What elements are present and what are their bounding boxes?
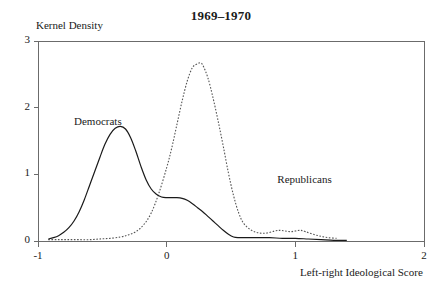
tick-marks	[34, 41, 424, 247]
plot-area	[0, 0, 442, 293]
curve-republicans	[48, 63, 336, 240]
curve-democrats	[48, 126, 347, 240]
kernel-density-figure: 1969–1970 Kernel Density Left-right Ideo…	[0, 0, 442, 293]
